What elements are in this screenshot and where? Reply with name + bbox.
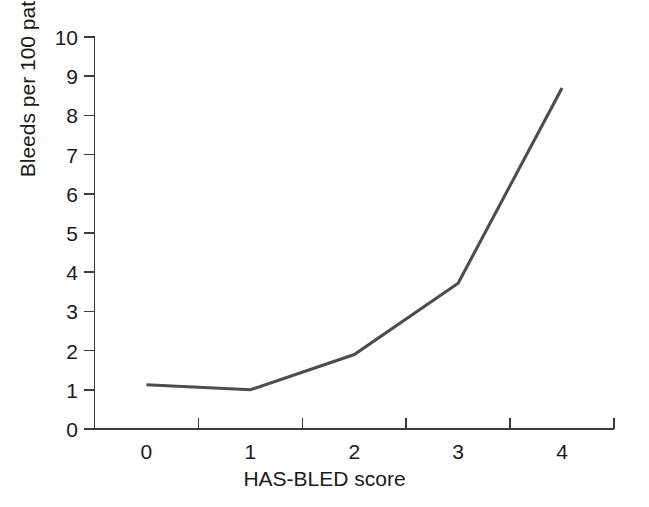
y-axis-tick-label: 4	[40, 262, 78, 283]
y-axis-tick-label: 7	[40, 144, 78, 165]
y-axis-ticks	[84, 37, 95, 429]
axes-group	[95, 37, 615, 429]
y-axis-tick-label: 6	[40, 183, 78, 204]
y-axis-tick-label: 5	[40, 223, 78, 244]
y-axis-tick-label: 1	[40, 379, 78, 400]
x-axis-tick-label: 2	[348, 441, 360, 462]
x-axis-tick-label: 3	[452, 441, 464, 462]
x-axis-title: HAS-BLED score	[0, 467, 649, 491]
y-axis-tick-label: 10	[40, 27, 78, 48]
y-axis-title: Bleeds per 100 patient-years	[13, 0, 43, 258]
chart-plot-area	[0, 0, 649, 507]
x-axis-ticks	[95, 418, 615, 429]
y-axis-tick-label: 3	[40, 301, 78, 322]
series-group	[146, 88, 562, 390]
x-axis-tick-label: 1	[245, 441, 257, 462]
y-axis-tick-label: 9	[40, 66, 78, 87]
chart-figure: 109876543210 01234 Bleeds per 100 patien…	[0, 0, 649, 507]
y-axis-tick-label: 2	[40, 340, 78, 361]
x-axis-tick-label: 0	[141, 441, 153, 462]
x-axis-tick-label: 4	[556, 441, 568, 462]
y-axis-tick-label: 0	[40, 419, 78, 440]
y-axis-tick-label: 8	[40, 105, 78, 126]
data-series-line	[146, 88, 562, 390]
